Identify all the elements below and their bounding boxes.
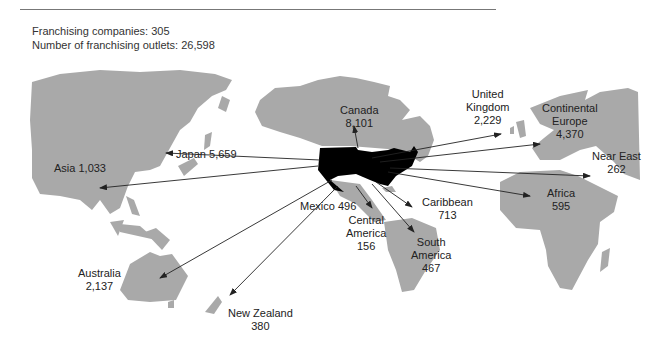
label-australia: Australia2,137 <box>78 267 121 293</box>
label-south-america: SouthAmerica467 <box>411 236 451 275</box>
label-canada: Canada8,101 <box>340 104 379 130</box>
label-caribbean: Caribbean713 <box>422 196 473 222</box>
asia-landmass <box>30 70 232 214</box>
label-africa: Africa595 <box>547 187 575 213</box>
label-asia: Asia 1,033 <box>54 162 106 175</box>
label-japan: Japan 5,659 <box>176 148 237 161</box>
label-near-east: Near East262 <box>592 150 641 176</box>
label-continental-europe: ContinentalEurope4,370 <box>542 102 598 141</box>
label-united-kingdom: UnitedKingdom2,229 <box>466 88 509 127</box>
label-mexico: Mexico 496 <box>300 200 356 213</box>
label-central-america: CentralAmerica156 <box>346 214 386 253</box>
label-new-zealand: New Zealand380 <box>228 307 293 333</box>
usa-landmass <box>318 146 418 192</box>
australia-landmass <box>120 252 188 302</box>
